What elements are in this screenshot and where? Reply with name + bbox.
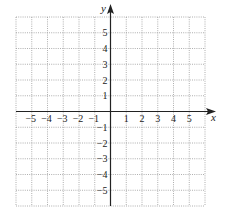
x-tick-label: 3 <box>155 113 160 124</box>
y-tick-label: −4 <box>97 169 108 180</box>
y-tick-label: 4 <box>103 43 108 54</box>
y-tick-label: −1 <box>97 122 108 133</box>
y-tick-label: −5 <box>97 185 108 196</box>
y-tick-label: 3 <box>103 59 108 70</box>
y-tick-label: 2 <box>103 75 108 86</box>
y-tick-label: −2 <box>97 138 108 149</box>
x-axis-label: x <box>210 111 216 123</box>
x-tick-label: −3 <box>57 113 68 124</box>
x-tick-label: −4 <box>41 113 52 124</box>
y-tick-label: 1 <box>103 90 108 101</box>
x-tick-labels: −5−4−3−2−112345 <box>25 113 191 124</box>
x-tick-label: 1 <box>124 113 129 124</box>
x-tick-label: 4 <box>171 113 176 124</box>
y-axis-label: y <box>100 2 106 14</box>
x-tick-label: 5 <box>187 113 192 124</box>
x-tick-label: −2 <box>73 113 84 124</box>
y-tick-label: 5 <box>103 27 108 38</box>
x-tick-label: 2 <box>140 113 145 124</box>
y-tick-label: −3 <box>97 153 108 164</box>
coordinate-plane: x y −5−4−3−2−112345 54321−1−2−3−4−5 <box>0 0 229 216</box>
x-tick-label: −5 <box>25 113 36 124</box>
